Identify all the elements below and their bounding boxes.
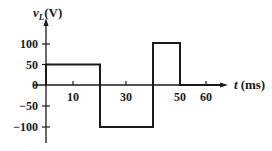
- x-axis-title: t(ms): [234, 77, 265, 92]
- y-tick-label-50: 50: [26, 58, 38, 72]
- y-tick-label-0: 0: [32, 78, 38, 92]
- y-tick-label-neg100: −100: [13, 120, 38, 134]
- x-tick-label-30: 30: [120, 90, 132, 104]
- chart: 100 50 0 −50 −100 10 30 50 60 vL(V) t(ms…: [0, 0, 272, 151]
- x-tick-label-10: 10: [67, 90, 79, 104]
- y-tick-label-neg50: −50: [19, 99, 38, 113]
- y-axis-title: vL(V): [33, 5, 62, 22]
- x-tick-label-50: 50: [174, 90, 186, 104]
- x-tick-label-60: 60: [200, 90, 212, 104]
- y-tick-label-100: 100: [20, 37, 38, 51]
